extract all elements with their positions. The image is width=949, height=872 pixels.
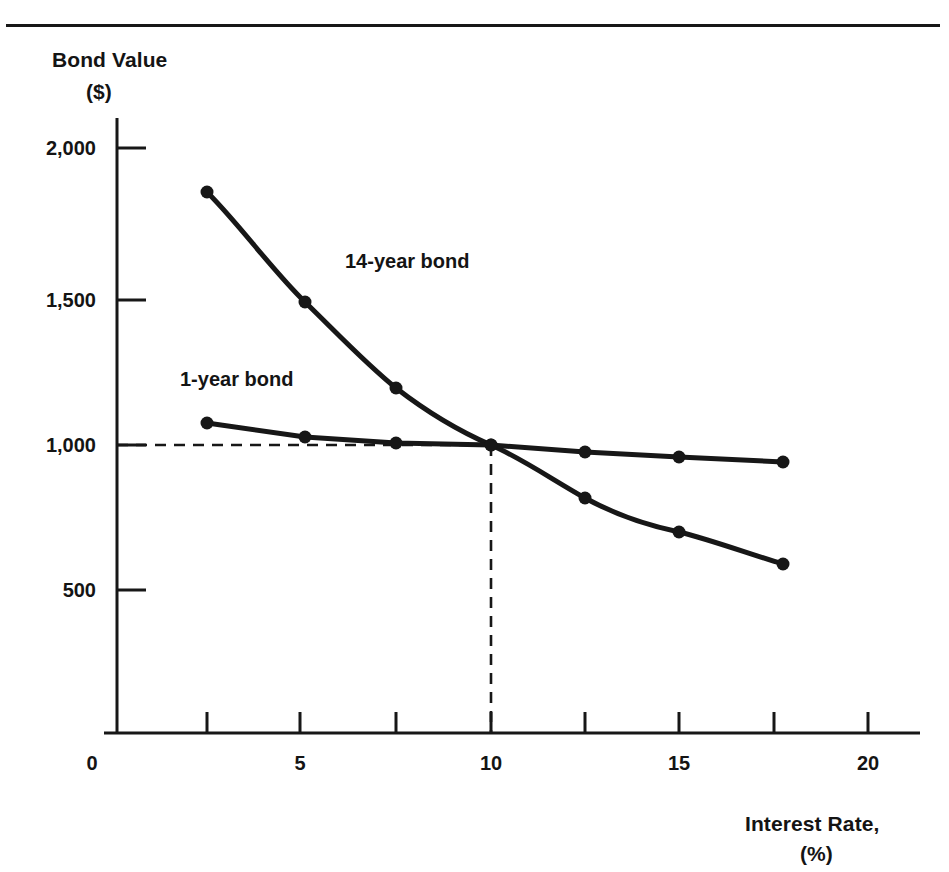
bond-value-chart-figure: Bond Value ($) Interest Rate, (%) 2,000 … [0, 0, 949, 872]
data-point [299, 296, 312, 309]
data-point [673, 451, 686, 464]
reference-lines-group [117, 445, 491, 733]
series-14-year-bond-line [207, 192, 783, 564]
data-point [777, 456, 790, 469]
data-point [299, 431, 312, 444]
data-point [579, 492, 592, 505]
data-point [673, 526, 686, 539]
series-1-year-bond [201, 417, 790, 469]
series-14-year-bond [201, 186, 790, 571]
data-point [201, 186, 214, 199]
data-point [777, 558, 790, 571]
data-point [390, 382, 403, 395]
data-point [201, 417, 214, 430]
data-point [579, 446, 592, 459]
data-point [485, 439, 498, 452]
data-point [390, 437, 403, 450]
plot-area [0, 0, 949, 872]
